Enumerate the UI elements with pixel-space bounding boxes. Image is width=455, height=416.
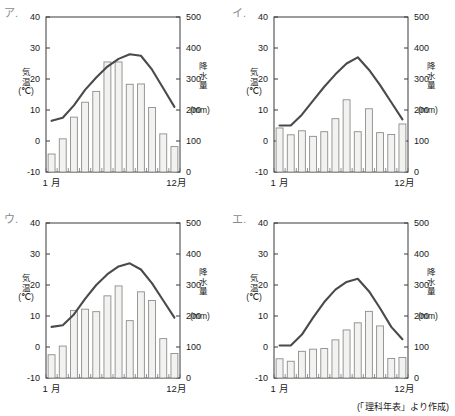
left-axis-tick-label: 10 [30,105,40,115]
right-axis-tick-label: 100 [186,342,201,352]
precipitation-bar [104,296,111,378]
precipitation-bar [287,361,294,378]
left-axis-tick-label: 40 [258,12,268,22]
precipitation-bar [310,136,317,172]
precipitation-bar [149,301,156,379]
precipitation-bar [126,84,133,172]
x-axis-label-end: 12月 [166,177,187,188]
precipitation-bar [388,358,395,378]
left-axis-tick-label: 10 [258,105,268,115]
precipitation-bar [137,84,144,172]
precipitation-bar [160,339,167,378]
panel-u: ウ. 気 温 (℃) 降 水 量 (mm) 403020100-10500400… [0,206,227,406]
left-axis-tick-label: 0 [35,342,40,352]
right-axis-tick-label: 300 [186,280,201,290]
precipitation-bar [82,309,89,378]
panel-i: イ. 気 温 (℃) 降 水 量 (mm) 403020100-10500400… [228,0,455,200]
right-axis-tick-label: 500 [186,218,201,228]
left-axis-tick-label: 30 [30,249,40,259]
x-axis-label-start: 1 月 [271,383,289,394]
right-axis-tick-label: 0 [186,167,191,177]
precipitation-bar [59,139,66,172]
precipitation-bar [298,131,305,172]
precipitation-bar [354,132,361,172]
panel-a: ア. 気 温 (℃) 降 水 量 (mm) 403020100-10500400… [0,0,227,200]
right-axis-tick-label: 0 [414,167,419,177]
precipitation-bar [377,326,384,378]
precipitation-bar [93,312,100,378]
precipitation-bar [365,109,372,172]
left-axis-tick-label: 30 [258,43,268,53]
precipitation-bar [343,330,350,378]
precipitation-bar [377,133,384,172]
precipitation-bar [48,154,55,172]
right-axis-tick-label: 300 [186,74,201,84]
precipitation-bar [171,354,178,378]
precipitation-bar [82,102,89,172]
left-axis-tick-label: 40 [30,218,40,228]
precipitation-bar [115,62,122,172]
left-axis-tick-label: 0 [35,136,40,146]
x-axis-label-end: 12月 [394,383,415,394]
precipitation-bar [276,128,283,172]
left-axis-tick-label: 20 [30,280,40,290]
x-axis-label-start: 1 月 [43,177,61,188]
left-axis-tick-label: -10 [255,373,268,383]
left-axis-tick-label: 40 [30,12,40,22]
right-axis-tick-label: 200 [414,105,429,115]
precipitation-bar [287,135,294,172]
source-note: (「理科年表」より作成) [357,400,449,413]
precipitation-bar [365,311,372,378]
right-axis-tick-label: 400 [414,43,429,53]
left-axis-tick-label: -10 [27,167,40,177]
right-axis-tick-label: 0 [414,373,419,383]
precipitation-bar [70,310,77,378]
precipitation-bar [149,108,156,172]
left-axis-tick-label: -10 [27,373,40,383]
left-axis-tick-label: 20 [258,74,268,84]
precipitation-bar [399,124,406,172]
precipitation-bar [332,119,339,172]
right-axis-tick-label: 200 [186,105,201,115]
x-axis-label-start: 1 月 [271,177,289,188]
precipitation-bar [310,349,317,378]
right-axis-tick-label: 300 [414,74,429,84]
right-axis-tick-label: 200 [414,311,429,321]
right-axis-tick-label: 100 [414,136,429,146]
left-axis-tick-label: 20 [258,280,268,290]
right-axis-tick-label: 500 [414,218,429,228]
precipitation-bar [276,359,283,378]
left-axis-tick-label: 0 [263,342,268,352]
panel-e: エ. 気 温 (℃) 降 水 量 (mm) 403020100-10500400… [228,206,455,406]
precipitation-bar [321,132,328,172]
right-axis-tick-label: 400 [186,249,201,259]
precipitation-bar [343,100,350,172]
left-axis-tick-label: -10 [255,167,268,177]
right-axis-tick-label: 200 [186,311,201,321]
left-axis-tick-label: 10 [30,311,40,321]
precipitation-bar [104,62,111,172]
left-axis-tick-label: 30 [258,249,268,259]
left-axis-tick-label: 10 [258,311,268,321]
precipitation-bar [48,355,55,378]
right-axis-tick-label: 100 [414,342,429,352]
x-axis-label-end: 12月 [166,383,187,394]
plot-area: 403020100-1050040030020010001 月12月 [0,206,227,406]
plot-area: 403020100-1050040030020010001 月12月 [228,0,455,200]
precipitation-bar [160,134,167,172]
precipitation-bar [137,292,144,378]
left-axis-tick-label: 40 [258,218,268,228]
precipitation-bar [115,286,122,378]
right-axis-tick-label: 400 [186,43,201,53]
plot-area: 403020100-1050040030020010001 月12月 [228,206,455,406]
right-axis-tick-label: 300 [414,280,429,290]
precipitation-bar [298,351,305,378]
precipitation-bar [399,358,406,378]
precipitation-bar [388,134,395,172]
precipitation-bar [171,147,178,172]
right-axis-tick-label: 500 [186,12,201,22]
right-axis-tick-label: 100 [186,136,201,146]
precipitation-bar [354,323,361,378]
left-axis-tick-label: 30 [30,43,40,53]
temperature-line [280,57,403,125]
